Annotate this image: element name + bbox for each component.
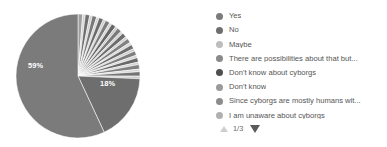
legend-item[interactable]: Don't know bbox=[216, 80, 384, 94]
pie-slice-percent-label: 18% bbox=[100, 79, 115, 88]
legend-item[interactable]: Yes bbox=[216, 9, 384, 23]
legend-item-label: There are possibilities about that but..… bbox=[229, 55, 358, 63]
legend-pager: 1/3 bbox=[219, 123, 261, 135]
legend-item-label: Yes bbox=[229, 12, 241, 20]
pie-slice-percent-label: 59% bbox=[28, 61, 43, 70]
triangle-down-icon[interactable] bbox=[250, 125, 260, 133]
legend-color-dot-icon bbox=[216, 55, 223, 62]
legend-item[interactable]: Don't know about cyborgs bbox=[216, 66, 384, 80]
legend-item[interactable]: I am unaware about cyborgs bbox=[216, 108, 384, 122]
legend-item-label: Since cyborgs are mostly humans wit... bbox=[229, 97, 361, 105]
legend-color-dot-icon bbox=[216, 69, 223, 76]
legend-item-label: Don't know bbox=[229, 83, 266, 91]
legend-color-dot-icon bbox=[216, 27, 223, 34]
pie-chart-widget: 59%18% YesNoMaybeThere are possibilities… bbox=[0, 0, 387, 147]
legend-item-label: Don't know about cyborgs bbox=[229, 69, 316, 77]
legend-item[interactable]: No bbox=[216, 23, 384, 37]
legend-color-dot-icon bbox=[216, 84, 223, 91]
legend-item-label: Maybe bbox=[229, 41, 252, 49]
legend-item-label: I am unaware about cyborgs bbox=[229, 112, 325, 120]
pie-slice-group bbox=[16, 14, 140, 138]
pie-chart-svg: 59%18% bbox=[12, 8, 148, 144]
chart-legend: YesNoMaybeThere are possibilities about … bbox=[216, 9, 384, 123]
legend-item-label: No bbox=[229, 26, 239, 34]
legend-color-dot-icon bbox=[216, 112, 223, 119]
legend-color-dot-icon bbox=[216, 13, 223, 20]
legend-item[interactable]: There are possibilities about that but..… bbox=[216, 52, 384, 66]
triangle-up-icon[interactable] bbox=[220, 126, 228, 132]
pie-chart[interactable]: 59%18% bbox=[12, 8, 148, 144]
legend-color-dot-icon bbox=[216, 41, 223, 48]
legend-item[interactable]: Maybe bbox=[216, 37, 384, 51]
legend-color-dot-icon bbox=[216, 98, 223, 105]
pager-count-label: 1/3 bbox=[233, 125, 243, 132]
legend-item[interactable]: Since cyborgs are mostly humans wit... bbox=[216, 94, 384, 108]
